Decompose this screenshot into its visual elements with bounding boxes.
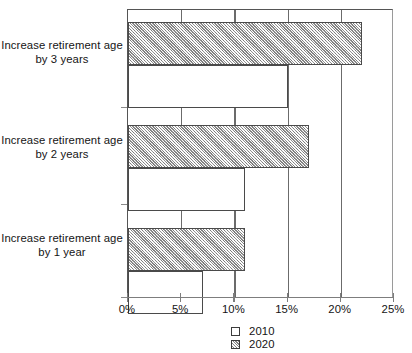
x-tick-label-10: 10% [210, 303, 256, 315]
y-minor-tick-1 [121, 107, 127, 108]
category-label-line1: Increase retirement age [1, 39, 123, 51]
plot-area [127, 9, 393, 297]
x-axis-line [127, 297, 393, 298]
category-label-3-years: Increase retirement age by 3 years [0, 38, 124, 66]
category-label-1-year: Increase retirement age by 1 year [0, 231, 124, 259]
x-tick-10 [233, 293, 234, 302]
legend-swatch-2010-icon [231, 327, 240, 336]
x-tick-5 [180, 293, 181, 302]
category-label-line1: Increase retirement age [1, 232, 123, 244]
legend-label-2010: 2010 [249, 325, 275, 338]
category-label-line2: by 3 years [0, 52, 124, 66]
x-tick-label-15: 15% [264, 303, 310, 315]
x-tick-0 [127, 293, 128, 302]
x-tick-label-20: 20% [317, 303, 363, 315]
x-tick-label-5: 5% [157, 303, 203, 315]
bar-2020-2-years [128, 125, 309, 168]
bar-chart: Increase retirement age by 3 years Incre… [0, 0, 412, 353]
legend-item-2010: 2010 [231, 325, 275, 338]
x-tick-label-0: 0% [104, 303, 150, 315]
bar-2020-1-year [128, 228, 245, 271]
chart-legend: 2010 2020 [231, 325, 275, 351]
x-tick-25 [393, 293, 394, 302]
category-label-line2: by 2 years [0, 147, 124, 161]
legend-label-2020: 2020 [249, 338, 275, 351]
category-label-line1: Increase retirement age [1, 134, 123, 146]
y-minor-tick-2 [121, 204, 127, 205]
bar-2020-3-years [128, 22, 362, 65]
bar-2010-3-years [128, 65, 288, 108]
x-tick-20 [340, 293, 341, 302]
category-label-2-years: Increase retirement age by 2 years [0, 133, 124, 161]
category-label-line2: by 1 year [0, 245, 124, 259]
legend-swatch-2020-icon [231, 340, 240, 349]
x-tick-label-25: 25% [370, 303, 412, 315]
bar-2010-2-years [128, 168, 245, 211]
legend-item-2020: 2020 [231, 338, 275, 351]
x-tick-15 [287, 293, 288, 302]
